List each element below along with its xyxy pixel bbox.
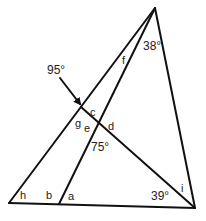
geometry-diagram: 38° 95° 75° 39° f c g e d h b a i [0,0,206,221]
angle-label-d: d [108,120,114,132]
angle-label-f: f [122,54,126,66]
angle-label-i: i [181,182,183,194]
inner-apex-line [59,8,155,204]
angle-label-38: 38° [143,39,161,53]
left-side-line [9,8,155,203]
pointer-arrow [60,78,80,104]
angle-label-a: a [68,190,75,202]
angle-label-95: 95° [47,63,65,77]
angle-label-g: g [75,117,81,129]
angle-label-c: c [90,106,96,118]
angle-label-e: e [84,122,90,134]
angle-label-75: 75° [91,140,109,154]
base-line [9,203,195,208]
angle-label-b: b [46,189,52,201]
angle-label-h: h [20,189,26,201]
angle-label-39: 39° [151,189,169,203]
